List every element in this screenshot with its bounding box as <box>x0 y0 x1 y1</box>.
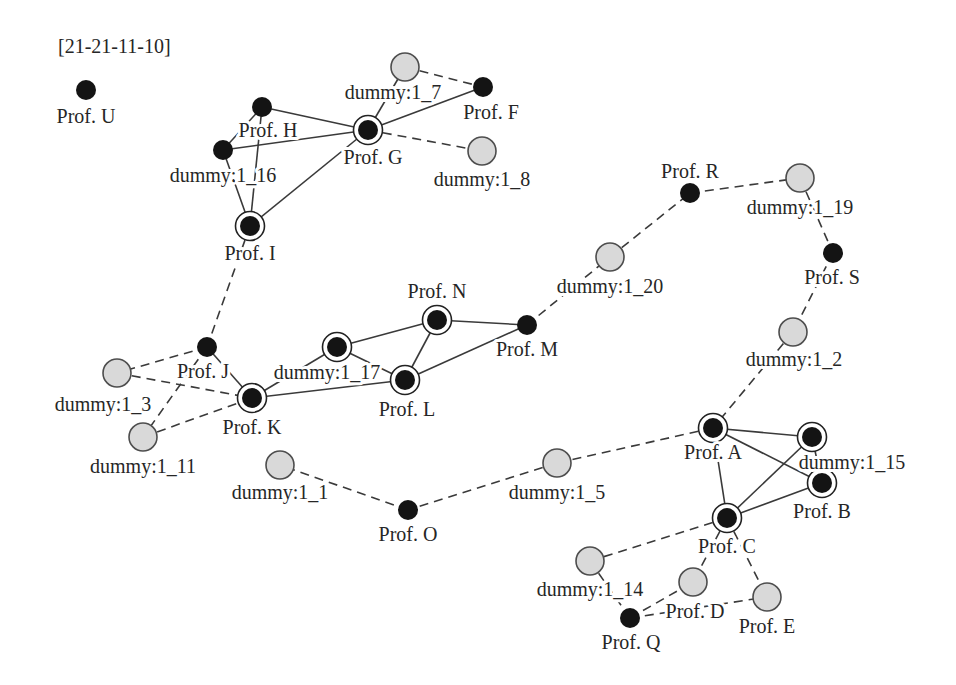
node-label: dummy:1_14 <box>537 578 644 601</box>
node-dot-icon <box>802 427 822 447</box>
edge-dashed-D20-R <box>610 193 690 257</box>
node-label: dummy:1_7 <box>345 81 442 104</box>
node-solid <box>517 315 537 335</box>
node-dot-icon <box>517 315 537 335</box>
node-label: Prof. I <box>224 242 275 264</box>
node-label: Prof. U <box>57 105 116 127</box>
node-dot-icon <box>717 508 737 528</box>
node-dummy <box>468 137 496 165</box>
node-ringed <box>236 212 265 241</box>
node-label: dummy:1_11 <box>90 455 196 478</box>
node-label: Prof. F <box>463 101 519 123</box>
node-label: Prof. J <box>177 360 229 382</box>
node-dot-icon <box>213 140 233 160</box>
node-dummy <box>779 318 807 346</box>
network-diagram: [21-21-11-10] Prof. UProf. Hdummy:1_16Pr… <box>0 0 956 685</box>
node-label: Prof. M <box>496 338 558 360</box>
node-dummy <box>753 583 781 611</box>
dummy-node-circle-icon <box>786 164 814 192</box>
node-dot-icon <box>703 418 723 438</box>
node-label: Prof. E <box>739 615 796 637</box>
node-solid <box>473 77 493 97</box>
node-dot-icon <box>327 337 347 357</box>
node-label: Prof. K <box>223 416 282 438</box>
node-label: Prof. N <box>408 280 467 302</box>
node-dot-icon <box>252 97 272 117</box>
node-label: dummy:1_17 <box>274 361 381 384</box>
node-label: Prof. Q <box>602 631 661 653</box>
node-dot-icon <box>812 473 832 493</box>
diagram-title: [21-21-11-10] <box>58 35 171 57</box>
node-solid <box>680 183 700 203</box>
node-dot-icon <box>358 120 378 140</box>
node-dot-icon <box>680 183 700 203</box>
node-label: Prof. D <box>666 600 725 622</box>
node-dot-icon <box>398 500 418 520</box>
node-label: dummy:1_16 <box>170 164 277 187</box>
node-dot-icon <box>427 310 447 330</box>
node-ringed <box>699 414 728 443</box>
node-ringed <box>798 423 827 452</box>
node-dummy <box>786 164 814 192</box>
node-label: Prof. G <box>344 146 403 168</box>
node-dot-icon <box>76 80 96 100</box>
node-dummy <box>576 547 604 575</box>
node-label: dummy:1_8 <box>434 168 531 191</box>
node-label: Prof. R <box>661 160 719 182</box>
dummy-node-circle-icon <box>576 547 604 575</box>
node-dot-icon <box>240 216 260 236</box>
node-label: dummy:1_15 <box>799 451 906 474</box>
dummy-node-circle-icon <box>129 423 157 451</box>
labels-layer: Prof. UProf. Hdummy:1_16Prof. Idummy:1_7… <box>55 81 906 653</box>
dummy-node-circle-icon <box>753 583 781 611</box>
node-label: Prof. C <box>698 535 756 557</box>
node-dot-icon <box>620 608 640 628</box>
node-label: Prof. S <box>804 266 860 288</box>
node-solid <box>620 608 640 628</box>
node-dummy <box>596 243 624 271</box>
node-ringed <box>238 384 267 413</box>
dummy-node-circle-icon <box>779 318 807 346</box>
dummy-node-circle-icon <box>679 568 707 596</box>
node-dummy <box>679 568 707 596</box>
node-label: Prof. B <box>793 500 851 522</box>
node-ringed <box>354 116 383 145</box>
node-ringed <box>713 504 742 533</box>
node-dummy <box>391 53 419 81</box>
node-label: dummy:1_20 <box>557 275 664 298</box>
node-label: dummy:1_1 <box>232 481 329 504</box>
edge-dashed-D2-A <box>713 332 793 428</box>
node-dummy <box>543 449 571 477</box>
node-ringed <box>423 306 452 335</box>
edge-solid-D17-N <box>337 320 437 347</box>
node-dot-icon <box>242 388 262 408</box>
node-label: dummy:1_19 <box>747 196 854 219</box>
node-solid <box>213 140 233 160</box>
node-ringed <box>391 366 420 395</box>
node-solid <box>76 80 96 100</box>
node-label: dummy:1_2 <box>746 348 843 371</box>
dummy-node-circle-icon <box>391 53 419 81</box>
dummy-node-circle-icon <box>596 243 624 271</box>
node-solid <box>398 500 418 520</box>
node-dot-icon <box>395 370 415 390</box>
node-dot-icon <box>823 243 843 263</box>
dummy-node-circle-icon <box>103 359 131 387</box>
node-ringed <box>323 333 352 362</box>
dummy-node-circle-icon <box>266 451 294 479</box>
node-label: Prof. O <box>379 523 438 545</box>
node-dummy <box>129 423 157 451</box>
node-label: Prof. L <box>379 398 436 420</box>
node-solid <box>252 97 272 117</box>
dummy-node-circle-icon <box>543 449 571 477</box>
node-label: dummy:1_5 <box>509 481 606 504</box>
node-solid <box>823 243 843 263</box>
node-label: dummy:1_3 <box>55 393 152 416</box>
node-dummy <box>266 451 294 479</box>
node-dot-icon <box>197 337 217 357</box>
node-label: Prof. A <box>684 441 742 463</box>
dummy-node-circle-icon <box>468 137 496 165</box>
node-dot-icon <box>473 77 493 97</box>
node-label: Prof. H <box>239 119 298 141</box>
node-dummy <box>103 359 131 387</box>
